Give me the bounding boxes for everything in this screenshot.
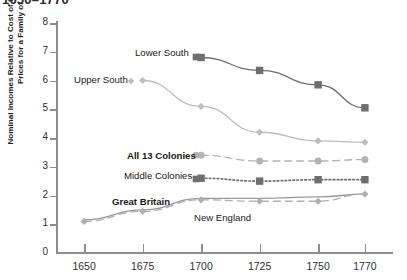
data-point bbox=[139, 208, 146, 215]
series-label-all-13-colonies: All 13 Colonies bbox=[127, 150, 196, 161]
plot-series-layer bbox=[0, 0, 407, 280]
data-point bbox=[256, 177, 263, 184]
data-point bbox=[256, 158, 263, 165]
data-point bbox=[80, 218, 87, 225]
data-point bbox=[315, 137, 322, 144]
series-label-middle-colonies: Middle Colonies bbox=[124, 170, 192, 181]
series-middle-colonies bbox=[197, 175, 368, 185]
data-point bbox=[315, 158, 322, 165]
data-point bbox=[361, 176, 368, 183]
series-line bbox=[201, 178, 365, 181]
data-point bbox=[197, 103, 204, 110]
series-line bbox=[201, 155, 365, 161]
series-lower-south bbox=[197, 54, 368, 112]
data-point bbox=[197, 196, 204, 203]
data-point bbox=[361, 156, 368, 163]
series-label-upper-south: Upper South bbox=[74, 74, 128, 85]
data-point bbox=[361, 139, 368, 146]
label-marker-glyph bbox=[193, 54, 200, 61]
data-point bbox=[256, 129, 263, 136]
data-point bbox=[314, 81, 321, 88]
data-point bbox=[314, 176, 321, 183]
label-marker-glyph bbox=[193, 176, 200, 183]
data-point bbox=[361, 104, 368, 111]
series-upper-south bbox=[139, 77, 369, 146]
chart-screenshot: 1650–1770 Nominal Incomes Relative to Co… bbox=[0, 0, 407, 280]
data-point bbox=[256, 67, 263, 74]
series-line bbox=[143, 81, 365, 143]
series-all-13-colonies bbox=[198, 152, 369, 165]
series-label-lower-south: Lower South bbox=[135, 47, 189, 58]
label-marker-glyph bbox=[128, 78, 135, 85]
data-point bbox=[315, 198, 322, 205]
data-point bbox=[361, 190, 368, 197]
series-label-new-england: New England bbox=[194, 212, 251, 223]
series-line bbox=[201, 58, 365, 108]
data-point bbox=[139, 77, 146, 84]
series-label-great-britain: Great Britain bbox=[112, 196, 170, 207]
